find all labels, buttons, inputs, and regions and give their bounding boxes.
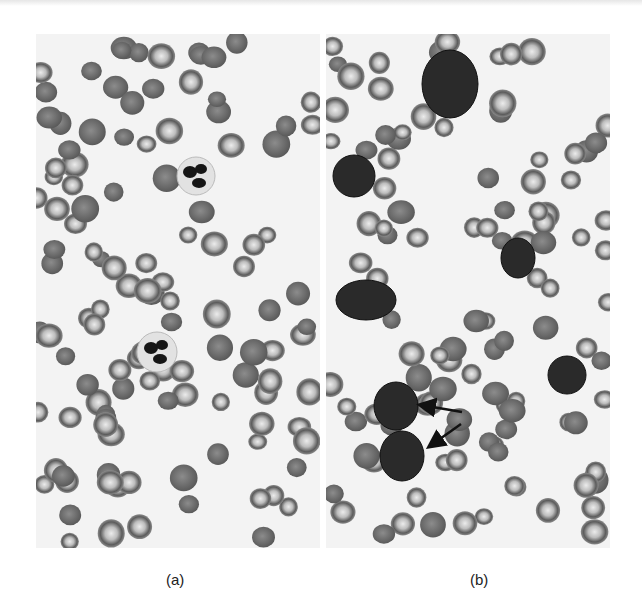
red-blood-cell <box>139 371 160 390</box>
red-blood-cell <box>301 115 320 135</box>
red-blood-cell <box>434 118 453 137</box>
red-blood-cell <box>298 318 316 335</box>
red-blood-cell <box>161 313 182 332</box>
red-blood-cell <box>301 92 320 113</box>
red-blood-cell <box>326 372 343 397</box>
red-blood-cell <box>477 168 499 189</box>
red-blood-cell <box>120 91 144 115</box>
red-blood-cell <box>71 195 99 222</box>
red-blood-cell <box>581 496 605 519</box>
red-blood-cell <box>476 218 498 238</box>
red-blood-cell <box>594 390 610 409</box>
red-blood-cell <box>97 470 124 494</box>
red-blood-cell <box>135 253 157 273</box>
red-blood-cell <box>52 465 75 486</box>
red-blood-cell <box>203 300 231 329</box>
red-blood-cell <box>36 62 53 83</box>
red-blood-cell <box>598 293 610 311</box>
red-blood-cell <box>189 201 215 223</box>
red-blood-cell <box>36 402 48 423</box>
red-blood-cell <box>430 347 449 365</box>
red-blood-cell <box>83 313 105 335</box>
red-blood-cell <box>406 228 428 248</box>
red-blood-cell <box>420 512 446 537</box>
red-blood-cell <box>45 158 67 179</box>
red-blood-cell <box>595 210 610 230</box>
red-blood-cell <box>240 339 268 366</box>
red-blood-cell <box>393 124 411 140</box>
red-blood-cell <box>201 231 228 256</box>
red-blood-cell <box>574 473 599 498</box>
blast-cell <box>374 382 418 430</box>
red-blood-cell <box>258 368 283 394</box>
red-blood-cell <box>258 299 280 321</box>
red-blood-cell <box>531 231 557 254</box>
red-blood-cell <box>585 132 607 153</box>
red-blood-cell <box>44 197 70 221</box>
red-blood-cell <box>37 106 62 128</box>
red-blood-cell <box>446 449 468 471</box>
red-blood-cell <box>326 37 343 56</box>
red-blood-cell <box>58 140 80 159</box>
red-blood-cell <box>212 393 230 411</box>
red-blood-cell <box>353 443 379 469</box>
red-blood-cell <box>369 52 390 74</box>
red-blood-cell <box>76 374 98 396</box>
red-blood-cell <box>533 316 559 340</box>
red-blood-cell <box>156 118 184 145</box>
red-blood-cell <box>521 169 546 194</box>
red-blood-cell <box>337 63 364 91</box>
red-blood-cell <box>59 504 81 525</box>
red-blood-cell <box>536 498 560 523</box>
blast-cell <box>501 238 535 278</box>
red-blood-cell <box>326 97 349 123</box>
red-blood-cell <box>330 500 355 523</box>
red-blood-cell <box>233 256 255 278</box>
blast-cell <box>380 431 424 481</box>
red-blood-cell <box>153 164 181 191</box>
red-blood-cell <box>375 125 396 145</box>
red-blood-cell <box>541 279 560 298</box>
red-blood-cell <box>489 89 516 117</box>
red-blood-cell <box>43 240 65 259</box>
blood-smear-image-a <box>36 34 320 548</box>
red-blood-cell <box>296 378 320 405</box>
red-blood-cell <box>564 411 588 434</box>
red-blood-cell <box>179 495 199 513</box>
blood-smear-image-b <box>326 34 610 548</box>
red-blood-cell <box>252 527 275 548</box>
red-blood-cell <box>202 47 227 69</box>
red-blood-cell <box>208 91 226 107</box>
red-blood-cell <box>377 147 400 169</box>
red-blood-cell <box>158 392 179 410</box>
red-blood-cell <box>530 151 548 168</box>
red-blood-cell <box>98 519 125 547</box>
red-blood-cell <box>287 458 307 477</box>
red-blood-cell <box>326 484 344 503</box>
red-blood-cell <box>179 69 203 94</box>
micrograph-panel-a <box>36 34 320 548</box>
red-blood-cell <box>286 282 310 306</box>
red-blood-cell <box>326 133 340 149</box>
red-blood-cell <box>399 341 425 366</box>
red-blood-cell <box>250 488 272 509</box>
red-blood-cell <box>461 364 481 385</box>
red-blood-cell <box>387 200 414 224</box>
red-blood-cell <box>407 487 427 507</box>
red-blood-cell <box>148 43 176 69</box>
red-blood-cell <box>368 77 394 101</box>
red-blood-cell <box>293 427 320 454</box>
red-blood-cell <box>207 443 229 465</box>
red-blood-cell <box>495 419 517 439</box>
blast-cell <box>422 50 478 118</box>
red-blood-cell <box>518 38 546 65</box>
red-blood-cell <box>58 407 81 428</box>
red-blood-cell <box>226 34 247 54</box>
red-blood-cell <box>453 511 478 535</box>
red-blood-cell <box>137 135 157 152</box>
panel-label-b: (b) <box>470 571 488 588</box>
red-blood-cell <box>62 175 84 196</box>
red-blood-cell <box>129 43 149 62</box>
red-blood-cell <box>375 220 393 237</box>
neutrophil <box>137 332 177 372</box>
